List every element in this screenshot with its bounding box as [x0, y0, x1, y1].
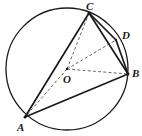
vertex-dots-group: [24, 12, 130, 119]
vertex-dot-A: [24, 116, 27, 119]
vertex-dot-D: [115, 39, 117, 41]
vertex-dot-O: [66, 68, 68, 70]
point-label-O: O: [63, 74, 71, 85]
point-label-C: C: [86, 1, 93, 12]
radius-O-B-line: [67, 69, 128, 74]
point-label-B: B: [132, 68, 139, 79]
chord-A-B-line: [25, 74, 128, 117]
chord-A-C-line: [25, 13, 89, 117]
radius-O-C-line: [67, 13, 89, 69]
point-label-D: D: [122, 30, 130, 41]
radius-O-A-line: [25, 69, 67, 117]
figure-canvas: [0, 0, 142, 136]
vertex-dot-B: [127, 73, 130, 76]
segment-C-D-line: [89, 13, 116, 40]
geometry-figure: C D B A O: [0, 0, 142, 136]
point-label-A: A: [17, 122, 24, 133]
